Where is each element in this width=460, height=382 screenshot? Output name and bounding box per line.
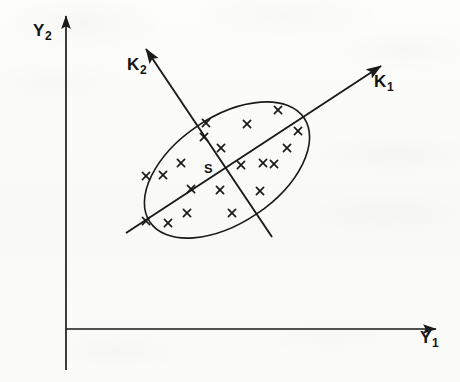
principal-axes-layer xyxy=(126,49,381,237)
principal-axis-2-line xyxy=(146,49,272,237)
data-point-marker xyxy=(256,187,263,194)
axis-label-y2-subscript: 2 xyxy=(45,29,52,43)
scatter-diagram-figure: Y2 Y1 K1 K2 S xyxy=(0,0,460,382)
data-point-marker xyxy=(274,106,281,113)
axis-label-k2-subscript: 2 xyxy=(139,63,146,77)
data-point-marker xyxy=(142,172,149,179)
data-points-layer xyxy=(142,106,301,226)
data-point-marker xyxy=(259,159,266,166)
axis-label-k1-subscript: 1 xyxy=(386,80,393,94)
data-point-marker xyxy=(183,209,190,216)
axis-label-y1-base: Y xyxy=(420,328,432,347)
data-point-marker xyxy=(237,161,244,168)
data-point-marker xyxy=(159,171,166,178)
axis-label-k2-base: K xyxy=(127,55,139,74)
data-point-marker xyxy=(294,127,301,134)
data-point-marker xyxy=(228,209,235,216)
data-point-marker xyxy=(243,120,250,127)
plot-canvas xyxy=(0,0,460,382)
axis-label-y1: Y1 xyxy=(420,328,439,350)
axis-label-y2: Y2 xyxy=(33,21,52,43)
axis-label-y2-base: Y xyxy=(33,21,45,40)
data-point-marker xyxy=(216,186,223,193)
axes-layer xyxy=(66,16,436,370)
axis-label-k2: K2 xyxy=(127,55,147,77)
data-point-marker xyxy=(283,144,290,151)
data-point-marker xyxy=(164,219,171,226)
centroid-label: S xyxy=(204,161,213,176)
data-point-marker xyxy=(270,160,277,167)
data-point-marker xyxy=(217,144,224,151)
axis-label-k1-base: K xyxy=(374,72,386,91)
data-point-marker xyxy=(177,159,184,166)
axis-label-k1: K1 xyxy=(374,72,394,94)
axis-label-y1-subscript: 1 xyxy=(432,336,439,350)
